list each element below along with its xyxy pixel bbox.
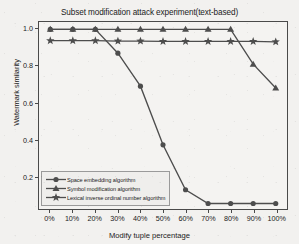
x-tick-mark xyxy=(118,210,119,213)
x-tick-label: 10% xyxy=(55,214,89,223)
x-tick-mark xyxy=(95,210,96,213)
star-marker xyxy=(52,193,60,201)
legend-triangle-icon xyxy=(45,184,67,193)
star-marker xyxy=(226,37,234,45)
x-tick-label: 60% xyxy=(169,214,203,223)
star-marker xyxy=(204,37,212,45)
x-tick-label: 0% xyxy=(32,214,66,223)
star-marker xyxy=(91,36,99,44)
y-tick-label: 0.2 xyxy=(7,173,33,182)
x-tick-label: 20% xyxy=(78,214,112,223)
star-marker xyxy=(272,37,280,45)
star-marker xyxy=(69,36,77,44)
x-tick-mark xyxy=(49,210,50,213)
chart-title: Subset modification attack experiment(te… xyxy=(0,8,299,17)
x-tick-label: 100% xyxy=(260,214,294,223)
x-tick-mark xyxy=(163,210,164,213)
circle-marker xyxy=(115,51,120,56)
series-1 xyxy=(47,26,279,91)
x-tick-mark xyxy=(254,210,255,213)
circle-marker xyxy=(228,201,233,206)
star-marker xyxy=(46,36,54,44)
circle-marker xyxy=(138,84,143,89)
legend-item[interactable]: Lexical inverse ordinal number algorithm xyxy=(45,193,165,202)
star-marker xyxy=(249,37,257,45)
x-tick-mark xyxy=(186,210,187,213)
series-2 xyxy=(46,36,280,45)
circle-marker xyxy=(251,201,256,206)
circle-marker xyxy=(183,187,188,192)
legend-item[interactable]: Space embedding algorithm xyxy=(45,175,165,184)
x-tick-mark xyxy=(140,210,141,213)
chart-legend[interactable]: Space embedding algorithmSymbol modifica… xyxy=(41,171,170,206)
x-tick-label: 30% xyxy=(101,214,135,223)
x-tick-label: 40% xyxy=(123,214,157,223)
star-marker xyxy=(114,37,122,45)
x-tick-mark xyxy=(208,210,209,213)
legend-circle-icon xyxy=(45,175,67,184)
circle-marker xyxy=(160,142,165,147)
legend-label: Symbol modification algorithm xyxy=(67,186,140,192)
chart-figure: Subset modification attack experiment(te… xyxy=(0,0,299,244)
circle-marker xyxy=(206,201,211,206)
star-marker xyxy=(136,37,144,45)
legend-item[interactable]: Symbol modification algorithm xyxy=(45,184,165,193)
y-axis-label: Watermark similarity xyxy=(12,33,21,153)
x-tick-label: 70% xyxy=(191,214,225,223)
legend-star-icon xyxy=(45,193,67,202)
x-tick-mark xyxy=(277,210,278,213)
x-tick-label: 90% xyxy=(237,214,271,223)
x-tick-label: 50% xyxy=(146,214,180,223)
star-marker xyxy=(159,37,167,45)
circle-marker xyxy=(273,201,278,206)
circle-marker xyxy=(53,177,58,182)
legend-label: Space embedding algorithm xyxy=(67,177,135,183)
x-tick-mark xyxy=(72,210,73,213)
plot-area: Space embedding algorithmSymbol modifica… xyxy=(38,21,288,210)
x-axis-label: Modify tuple percentage xyxy=(0,231,299,240)
legend-label: Lexical inverse ordinal number algorithm xyxy=(67,195,165,201)
x-tick-label: 80% xyxy=(214,214,248,223)
x-tick-mark xyxy=(231,210,232,213)
star-marker xyxy=(181,37,189,45)
